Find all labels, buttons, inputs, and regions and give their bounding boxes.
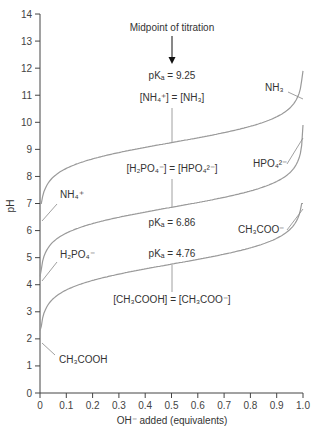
y-tick-label: 3 bbox=[26, 306, 32, 317]
x-axis-ticks: 00.10.20.30.40.50.60.70.80.91.0 bbox=[37, 393, 310, 411]
y-tick-label: 4 bbox=[26, 279, 32, 290]
y-tick-label: 11 bbox=[22, 90, 33, 101]
x-tick-label: 0.9 bbox=[270, 400, 284, 411]
ch3cooh-label: CH₃COOH bbox=[59, 354, 108, 365]
ch3cooh-leader bbox=[42, 343, 55, 355]
hpo4-label: HPO₄²⁻ bbox=[253, 158, 287, 169]
x-axis-label: OH⁻ added (equivalents) bbox=[117, 415, 228, 426]
nh4-label: NH₄⁺ bbox=[60, 189, 84, 200]
y-tick-label: 8 bbox=[26, 171, 32, 182]
x-tick-label: 1.0 bbox=[296, 400, 310, 411]
y-tick-label: 12 bbox=[21, 63, 33, 74]
ch3coo-label: CH₃COO⁻ bbox=[238, 224, 284, 235]
x-tick-label: 0.8 bbox=[243, 400, 257, 411]
pka-acet-label: pKₐ = 4.76 bbox=[149, 248, 196, 259]
x-tick-label: 0 bbox=[37, 400, 43, 411]
y-tick-label: 0 bbox=[26, 388, 32, 399]
eq-phos-label: [H₂PO₄⁻] = [HPO₄²⁻] bbox=[126, 163, 217, 174]
x-tick-label: 0.1 bbox=[59, 400, 73, 411]
y-axis-ticks: 01234567891011121314 bbox=[21, 9, 40, 399]
h2po4-leader bbox=[42, 262, 57, 281]
y-tick-label: 13 bbox=[21, 36, 33, 47]
pka-phos-label: pKₐ = 6.86 bbox=[149, 217, 196, 228]
nh3-label: NH₃ bbox=[265, 82, 284, 93]
pka-nh3-label: pKₐ = 9.25 bbox=[149, 70, 196, 81]
h2po4-label: H₂PO₄⁻ bbox=[60, 249, 95, 260]
titration-curves bbox=[40, 71, 303, 331]
y-axis-label: pH bbox=[5, 200, 16, 213]
eq-nh3-label: [NH₄⁺] = [NH₃] bbox=[140, 92, 205, 103]
nh4-leader bbox=[42, 204, 57, 221]
y-tick-label: 7 bbox=[26, 198, 32, 209]
ch3coo-leader bbox=[287, 209, 303, 230]
x-tick-label: 0.7 bbox=[217, 400, 231, 411]
x-tick-label: 0.5 bbox=[165, 400, 179, 411]
y-tick-label: 5 bbox=[26, 252, 32, 263]
x-tick-label: 0.6 bbox=[191, 400, 205, 411]
nh3-leader bbox=[288, 92, 303, 99]
y-tick-label: 10 bbox=[21, 117, 33, 128]
y-tick-label: 14 bbox=[21, 9, 33, 20]
y-tick-label: 6 bbox=[26, 225, 32, 236]
x-tick-label: 0.4 bbox=[138, 400, 152, 411]
y-tick-label: 1 bbox=[26, 360, 32, 371]
titration-chart: 01234567891011121314 00.10.20.30.40.50.6… bbox=[0, 0, 323, 438]
x-tick-label: 0.2 bbox=[86, 400, 100, 411]
titration-curve bbox=[40, 71, 303, 204]
midpoint-label: Midpoint of titration bbox=[130, 22, 215, 33]
x-tick-label: 0.3 bbox=[112, 400, 126, 411]
arrow-head-icon bbox=[169, 57, 176, 64]
y-tick-label: 2 bbox=[26, 333, 32, 344]
eq-acet-label: [CH₃COOH] = [CH₃COO⁻] bbox=[113, 294, 231, 305]
y-tick-label: 9 bbox=[26, 144, 32, 155]
